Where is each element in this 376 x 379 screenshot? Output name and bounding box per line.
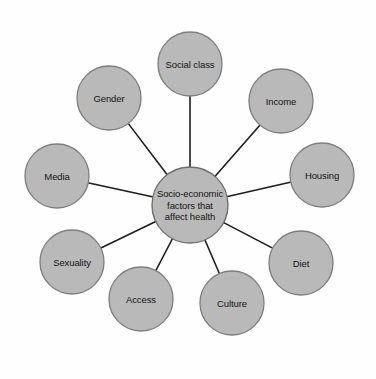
node-circle-sexuality[interactable] xyxy=(40,230,104,294)
connector-line-income xyxy=(215,125,261,177)
node-circle-housing[interactable] xyxy=(290,143,354,207)
connector-line-gender xyxy=(128,123,167,175)
node-circle-center-hub[interactable] xyxy=(152,167,228,243)
node-circles-group xyxy=(25,32,354,335)
connector-line-housing xyxy=(227,182,292,197)
node-circle-diet[interactable] xyxy=(269,231,333,295)
node-circle-income[interactable] xyxy=(249,69,313,133)
node-circle-culture[interactable] xyxy=(200,271,264,335)
node-circle-access[interactable] xyxy=(109,267,173,331)
connector-line-culture xyxy=(205,239,220,274)
node-circle-social-class[interactable] xyxy=(158,32,222,96)
connector-line-media xyxy=(88,183,154,197)
connector-line-diet xyxy=(223,222,273,248)
node-circle-media[interactable] xyxy=(25,144,89,208)
node-circle-gender[interactable] xyxy=(77,66,141,130)
connector-line-sexuality xyxy=(100,221,156,248)
diagram-graphic xyxy=(0,0,376,379)
diagram-canvas: Social classIncomeHousingDietCultureAcce… xyxy=(0,0,376,379)
connector-line-access xyxy=(156,238,173,271)
